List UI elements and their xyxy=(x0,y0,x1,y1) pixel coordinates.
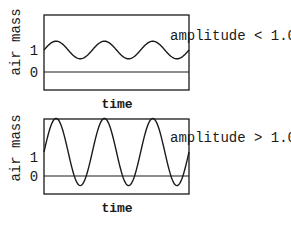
bottom-amplitude-annotation: amplitude > 1.0 xyxy=(170,130,291,146)
top-sine-curve xyxy=(44,41,189,59)
top-panel: 1 0 air mass time amplitude < 1.0 xyxy=(8,8,291,112)
bottom-y-axis-label: air mass xyxy=(8,114,24,181)
top-y-axis-label: air mass xyxy=(8,8,24,75)
bottom-plot-frame xyxy=(44,119,189,194)
top-tick-1: 1 xyxy=(30,43,38,59)
chart-figure: 1 0 air mass time amplitude < 1.0 1 0 ai… xyxy=(0,0,291,226)
bottom-tick-0: 0 xyxy=(30,169,38,185)
bottom-tick-1: 1 xyxy=(30,150,38,166)
bottom-panel: 1 0 air mass time amplitude > 1.0 xyxy=(8,114,291,216)
bottom-x-axis-label: time xyxy=(101,201,132,216)
top-amplitude-annotation: amplitude < 1.0 xyxy=(170,28,291,44)
top-x-axis-label: time xyxy=(101,97,132,112)
top-tick-0: 0 xyxy=(30,65,38,81)
